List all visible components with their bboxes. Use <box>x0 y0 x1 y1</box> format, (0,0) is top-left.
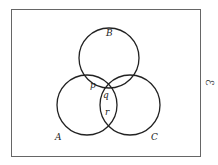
universal-set-symbol: ℰ <box>203 79 216 86</box>
set-c-circle <box>100 75 160 135</box>
region-r-label: r <box>105 107 110 117</box>
set-a-label: A <box>54 132 62 142</box>
region-p-label: p <box>90 80 96 90</box>
venn-diagram: B A C p q r ℰ <box>0 0 218 165</box>
set-b-label: B <box>105 28 113 38</box>
region-q-label: q <box>103 90 109 100</box>
set-c-label: C <box>151 132 158 142</box>
